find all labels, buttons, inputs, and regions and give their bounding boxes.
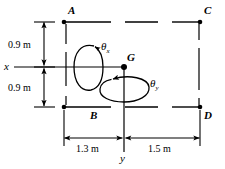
axis-label-y: y <box>120 153 125 164</box>
point-marker-a <box>62 20 67 25</box>
point-marker-b <box>62 105 67 110</box>
point-marker-d <box>198 105 203 110</box>
theta-x-rotation-arrow <box>74 45 103 90</box>
vertical-dimension-line <box>34 22 55 107</box>
diagram-canvas <box>0 0 225 169</box>
point-label-c: C <box>204 5 211 16</box>
point-label-a: A <box>68 5 75 16</box>
dimension-label-upper-vertical: 0.9 m <box>8 40 31 50</box>
point-marker-g <box>121 64 127 70</box>
theta-x-subscript: x <box>106 47 109 55</box>
dimension-label-left-horizontal: 1.3 m <box>76 144 99 154</box>
axis-label-x: x <box>4 61 9 72</box>
rotation-label-theta-x: θx <box>101 41 110 55</box>
rotation-label-theta-y: θy <box>150 78 159 92</box>
point-label-g: G <box>127 52 135 63</box>
dimension-label-lower-vertical: 0.9 m <box>8 83 31 93</box>
point-label-d: D <box>204 110 212 121</box>
point-marker-c <box>198 20 203 25</box>
horizontal-dimension-line <box>64 110 200 146</box>
point-label-b: B <box>90 110 97 121</box>
dimension-label-right-horizontal: 1.5 m <box>148 144 171 154</box>
theta-y-subscript: y <box>155 84 158 92</box>
figure-container: A B C D G x y 0.9 m 0.9 m 1.3 m 1.5 m θx… <box>0 0 225 169</box>
